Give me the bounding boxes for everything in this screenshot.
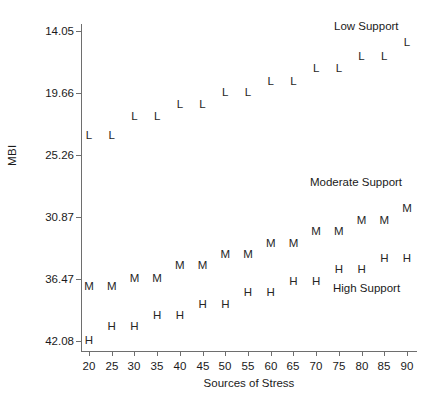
data-point-marker: L [105, 130, 119, 142]
data-point-marker: H [400, 253, 414, 265]
data-point-marker: H [173, 310, 187, 322]
data-point-marker: L [173, 99, 187, 111]
data-point-marker: L [150, 111, 164, 123]
data-point-marker: M [264, 238, 278, 250]
data-point-marker: L [218, 87, 232, 99]
x-axis-line [81, 351, 417, 352]
plot-area: 42.0836.4730.8725.2619.6614.05 202530354… [0, 0, 423, 403]
series-label-moderate-support: Moderate Support [310, 176, 402, 188]
data-point-marker: M [150, 273, 164, 285]
x-axis-tick [134, 351, 135, 356]
x-axis-tick [203, 351, 204, 356]
scatter-plot-figure: 42.0836.4730.8725.2619.6614.05 202530354… [0, 0, 423, 403]
x-axis-tick [225, 351, 226, 356]
data-point-marker: L [82, 130, 96, 142]
y-axis-tick [76, 93, 82, 94]
y-axis-tick-label: 36.47 [28, 274, 74, 286]
data-point-marker: L [377, 51, 391, 63]
data-point-marker: H [105, 321, 119, 333]
data-point-marker: M [173, 260, 187, 272]
y-axis-tick [76, 279, 82, 280]
data-point-marker: H [332, 264, 346, 276]
data-point-marker: H [241, 287, 255, 299]
data-point-marker: H [355, 264, 369, 276]
x-axis-tick-label: 80 [350, 361, 374, 373]
x-axis-tick [89, 351, 90, 356]
x-axis-tick-label: 70 [304, 361, 328, 373]
x-axis-tick-label: 85 [372, 361, 396, 373]
x-axis-tick [180, 351, 181, 356]
y-axis-tick [76, 155, 82, 156]
data-point-marker: M [377, 215, 391, 227]
x-axis-tick-label: 45 [191, 361, 215, 373]
x-axis-tick-label: 55 [236, 361, 260, 373]
data-point-marker: M [105, 281, 119, 293]
data-point-marker: H [218, 299, 232, 311]
data-point-marker: L [309, 63, 323, 75]
data-point-marker: M [309, 226, 323, 238]
data-point-marker: L [400, 37, 414, 49]
data-point-marker: L [332, 63, 346, 75]
data-point-marker: H [264, 287, 278, 299]
data-point-marker: L [355, 51, 369, 63]
y-axis-line [81, 24, 82, 351]
data-point-marker: M [127, 273, 141, 285]
data-point-marker: H [127, 321, 141, 333]
x-axis-tick-label: 25 [100, 361, 124, 373]
x-axis-tick [248, 351, 249, 356]
x-axis-title: Sources of Stress [81, 377, 417, 389]
y-axis-tick-label: 25.26 [28, 150, 74, 162]
x-axis-tick-label: 90 [395, 361, 419, 373]
data-point-marker: L [286, 76, 300, 88]
data-point-marker: M [400, 203, 414, 215]
x-axis-tick [384, 351, 385, 356]
x-axis-tick-label: 75 [327, 361, 351, 373]
data-point-marker: M [196, 260, 210, 272]
y-axis-tick [76, 31, 82, 32]
x-axis-tick [112, 351, 113, 356]
x-axis-tick [293, 351, 294, 356]
x-axis-tick [339, 351, 340, 356]
x-axis-tick-label: 50 [213, 361, 237, 373]
data-point-marker: H [82, 335, 96, 347]
data-point-marker: M [82, 281, 96, 293]
y-axis-tick-label: 14.05 [28, 26, 74, 38]
y-axis-tick-label: 42.08 [28, 336, 74, 348]
data-point-marker: L [241, 87, 255, 99]
data-point-marker: M [286, 238, 300, 250]
data-point-marker: M [218, 249, 232, 261]
x-axis-tick-label: 40 [168, 361, 192, 373]
series-label-low-support: Low Support [334, 20, 399, 32]
data-point-marker: H [150, 310, 164, 322]
data-point-marker: L [127, 111, 141, 123]
x-axis-tick [407, 351, 408, 356]
series-label-high-support: High Support [333, 282, 400, 294]
x-axis-tick-label: 35 [145, 361, 169, 373]
y-axis-tick [76, 217, 82, 218]
x-axis-tick-label: 65 [281, 361, 305, 373]
x-axis-tick [362, 351, 363, 356]
y-axis-title: MBI [6, 144, 18, 166]
data-point-marker: L [264, 76, 278, 88]
data-point-marker: H [196, 299, 210, 311]
x-axis-tick-label: 60 [259, 361, 283, 373]
y-axis-tick-label: 19.66 [28, 88, 74, 100]
x-axis-tick [316, 351, 317, 356]
data-point-marker: M [355, 215, 369, 227]
x-axis-tick [157, 351, 158, 356]
y-axis-tick-label: 30.87 [28, 212, 74, 224]
data-point-marker: H [286, 276, 300, 288]
data-point-marker: M [241, 249, 255, 261]
x-axis-tick-label: 20 [77, 361, 101, 373]
data-point-marker: M [332, 226, 346, 238]
data-point-marker: L [196, 99, 210, 111]
data-point-marker: H [309, 276, 323, 288]
x-axis-tick-label: 30 [122, 361, 146, 373]
data-point-marker: H [377, 253, 391, 265]
x-axis-tick [271, 351, 272, 356]
